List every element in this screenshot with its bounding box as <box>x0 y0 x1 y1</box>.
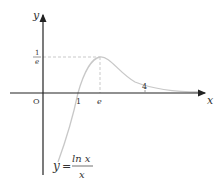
y-axis-label: y <box>32 9 40 22</box>
curve-lnx-over-x <box>58 57 200 162</box>
function-lhs: y <box>52 159 60 173</box>
function-graph: y x O 1 e 4 1 e y = ln x x <box>0 0 217 191</box>
x-tick-4: 4 <box>142 82 147 91</box>
y-tick-denominator: e <box>35 58 39 66</box>
y-tick-numerator: 1 <box>35 49 39 57</box>
x-axis-label: x <box>207 94 214 107</box>
x-tick-1: 1 <box>76 97 81 106</box>
function-eq: = <box>62 160 71 173</box>
function-denominator: x <box>79 169 85 180</box>
function-numerator: ln x <box>72 153 91 164</box>
x-tick-e: e <box>97 97 102 106</box>
origin-label: O <box>33 97 40 106</box>
